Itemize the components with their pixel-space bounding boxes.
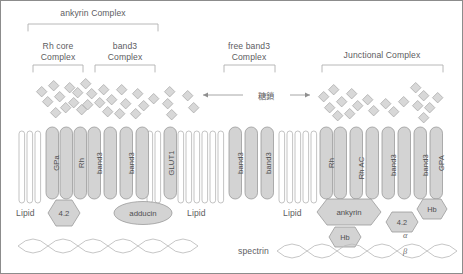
- label-lipid-right: Lipid: [283, 208, 302, 219]
- label-protein-gpa-2: GPA: [437, 155, 446, 171]
- label-junctional-complex: Junctional Complex: [344, 50, 421, 61]
- protein-gpa-b: [60, 127, 73, 199]
- label-protein-rh-1: Rh: [77, 158, 86, 168]
- label-free-band3-complex: free band3 Complex: [228, 41, 270, 63]
- label-spectrin: spectrin: [238, 246, 269, 257]
- label-band3-complex-line1: band3: [108, 41, 143, 52]
- label-free-band3-complex-line2: Complex: [228, 52, 270, 63]
- label-band3-complex: band3 Complex: [108, 41, 143, 63]
- label-protein-gpa: GPa: [52, 155, 61, 171]
- label-protein-4-2-left: 4.2: [59, 209, 70, 218]
- label-band3-complex-line2: Complex: [108, 52, 143, 63]
- label-ankyrin: ankyrin: [336, 208, 361, 217]
- label-protein-rh-2: Rh: [327, 158, 336, 168]
- label-lipid-left: Lipid: [16, 208, 35, 219]
- label-protein-glut1: GLUT1: [167, 150, 176, 175]
- label-glycan: 糖鎖: [258, 89, 274, 101]
- membrane-diagram: ankyrin Complex Rh core Complex band3 Co…: [0, 0, 463, 274]
- label-protein-band3-4: band3: [264, 152, 273, 174]
- label-adducin: adducin: [129, 209, 156, 218]
- label-protein-band3-2: band3: [127, 152, 136, 174]
- label-ankyrin-complex: ankyrin Complex: [60, 8, 126, 19]
- protein-band3-2b: [136, 127, 149, 199]
- protein-rh-ac-b: [366, 127, 379, 199]
- label-protein-band3-3: band3: [236, 152, 245, 174]
- label-lipid-middle: Lipid: [187, 208, 206, 219]
- protein-band3-3b: [245, 127, 258, 199]
- label-hb-lower: Hb: [340, 233, 349, 242]
- label-protein-4-2-right: 4.2: [397, 218, 407, 227]
- label-protein-rh-ac: Rh AC: [357, 157, 366, 180]
- label-protein-band3-1: band3: [95, 152, 104, 174]
- label-protein-band3-5: band3: [389, 154, 398, 176]
- protein-band3-5b: [398, 127, 411, 199]
- label-beta-chain: β: [403, 247, 407, 256]
- protein-rh-2b: [334, 127, 347, 199]
- label-rh-core-complex-line1: Rh core: [41, 41, 76, 52]
- label-free-band3-complex-line1: free band3: [228, 41, 270, 52]
- label-rh-core-complex-line2: Complex: [41, 52, 76, 63]
- label-protein-band3-6: band3: [421, 154, 430, 176]
- protein-band3-1b: [104, 127, 117, 199]
- label-alpha-chain: α: [403, 231, 407, 240]
- label-hb-right: Hb: [427, 205, 436, 214]
- label-rh-core-complex: Rh core Complex: [41, 41, 76, 63]
